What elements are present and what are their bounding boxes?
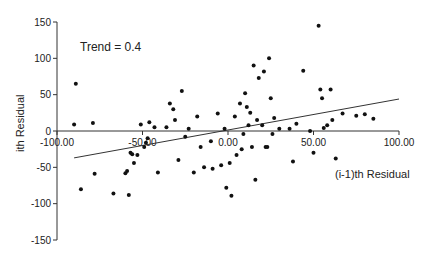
data-point [187, 127, 191, 131]
data-point [322, 126, 326, 130]
data-point [341, 112, 345, 116]
data-point [243, 91, 247, 95]
data-point [294, 122, 298, 126]
data-point [301, 69, 305, 73]
data-point [132, 161, 136, 165]
x-axis-label: (i-1)th Residual [335, 168, 410, 180]
data-point [171, 107, 175, 111]
y-tick-label: 100 [34, 53, 51, 64]
data-point [233, 114, 237, 118]
data-point [253, 178, 257, 182]
data-point [371, 117, 375, 121]
trend-line [74, 99, 399, 158]
data-point [262, 69, 266, 73]
data-point [211, 167, 215, 171]
data-point [248, 111, 252, 115]
data-point [146, 136, 150, 140]
data-point [192, 170, 196, 174]
data-point [139, 122, 143, 126]
data-point [312, 151, 316, 155]
data-point [147, 120, 151, 124]
data-point [130, 152, 134, 156]
data-point [267, 56, 271, 60]
data-point [91, 121, 95, 125]
data-point [235, 153, 239, 157]
y-tick-label: -50 [37, 162, 52, 173]
data-point [173, 118, 177, 122]
data-point [240, 147, 244, 151]
data-point [247, 123, 251, 127]
data-point [216, 112, 220, 116]
data-point [229, 194, 233, 198]
data-point [79, 187, 83, 191]
data-point [195, 114, 199, 118]
y-tick-label: 0 [45, 126, 51, 137]
data-point [317, 24, 321, 28]
y-tick-label: -100 [31, 198, 51, 209]
data-point [269, 96, 273, 100]
data-point [252, 64, 256, 68]
y-axis: 150100500-50-100-150 [31, 17, 57, 246]
data-point [238, 101, 242, 105]
data-point [329, 88, 333, 92]
data-point [183, 135, 187, 139]
trend-annotation: Trend = 0.4 [80, 40, 142, 54]
data-point [318, 88, 322, 92]
data-point [325, 123, 329, 127]
data-point [330, 118, 334, 122]
x-tick-label: 100.00 [384, 137, 415, 148]
data-point [72, 122, 76, 126]
data-point [142, 145, 146, 149]
data-point [255, 118, 259, 122]
x-axis: -100.00-50.000.0050.00100.00 [40, 131, 415, 148]
scatter-chart: 150100500-50-100-150 -100.00-50.000.0050… [0, 0, 431, 257]
data-point [168, 101, 172, 105]
data-point [260, 123, 264, 127]
data-point [291, 160, 295, 164]
data-point [320, 96, 324, 100]
y-tick-label: 150 [34, 17, 51, 28]
data-point [354, 114, 358, 118]
data-point [144, 141, 148, 145]
data-point [277, 127, 281, 131]
data-point [152, 125, 156, 129]
data-point [241, 132, 245, 136]
data-point [245, 105, 249, 109]
data-point [202, 165, 206, 169]
data-point [272, 116, 276, 120]
data-point [223, 127, 227, 131]
data-point [74, 82, 78, 86]
data-point [125, 169, 129, 173]
x-tick-label: 50.00 [301, 137, 326, 148]
y-axis-label: ith Residual [14, 95, 26, 152]
data-point [270, 132, 274, 136]
data-point [250, 145, 254, 149]
data-point [180, 89, 184, 93]
data-point [111, 191, 115, 195]
data-point [93, 172, 97, 176]
x-tick-label: 0.00 [218, 137, 238, 148]
data-point [257, 76, 261, 80]
data-point [199, 145, 203, 149]
y-tick-label: 50 [40, 89, 52, 100]
data-point [308, 129, 312, 133]
data-point [176, 158, 180, 162]
data-point [228, 161, 232, 165]
data-point [209, 139, 213, 143]
data-point [363, 112, 367, 116]
data-point [265, 145, 269, 149]
data-point [219, 163, 223, 167]
data-point [127, 193, 131, 197]
data-point [288, 127, 292, 131]
data-point [224, 186, 228, 190]
x-tick-label: -100.00 [40, 137, 74, 148]
y-tick-label: -150 [31, 235, 51, 246]
data-point [164, 125, 168, 129]
data-point [156, 170, 160, 174]
data-point [135, 153, 139, 157]
data-point [334, 157, 338, 161]
